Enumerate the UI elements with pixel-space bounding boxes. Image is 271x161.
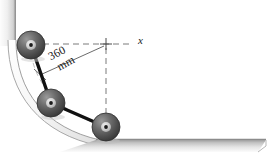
x-axis-label: x xyxy=(138,34,143,46)
mechanics-figure: x 360 mm xyxy=(0,0,271,161)
figure-canvas xyxy=(0,0,271,161)
roller-top xyxy=(17,31,45,62)
origin-cross-marker xyxy=(100,38,112,50)
